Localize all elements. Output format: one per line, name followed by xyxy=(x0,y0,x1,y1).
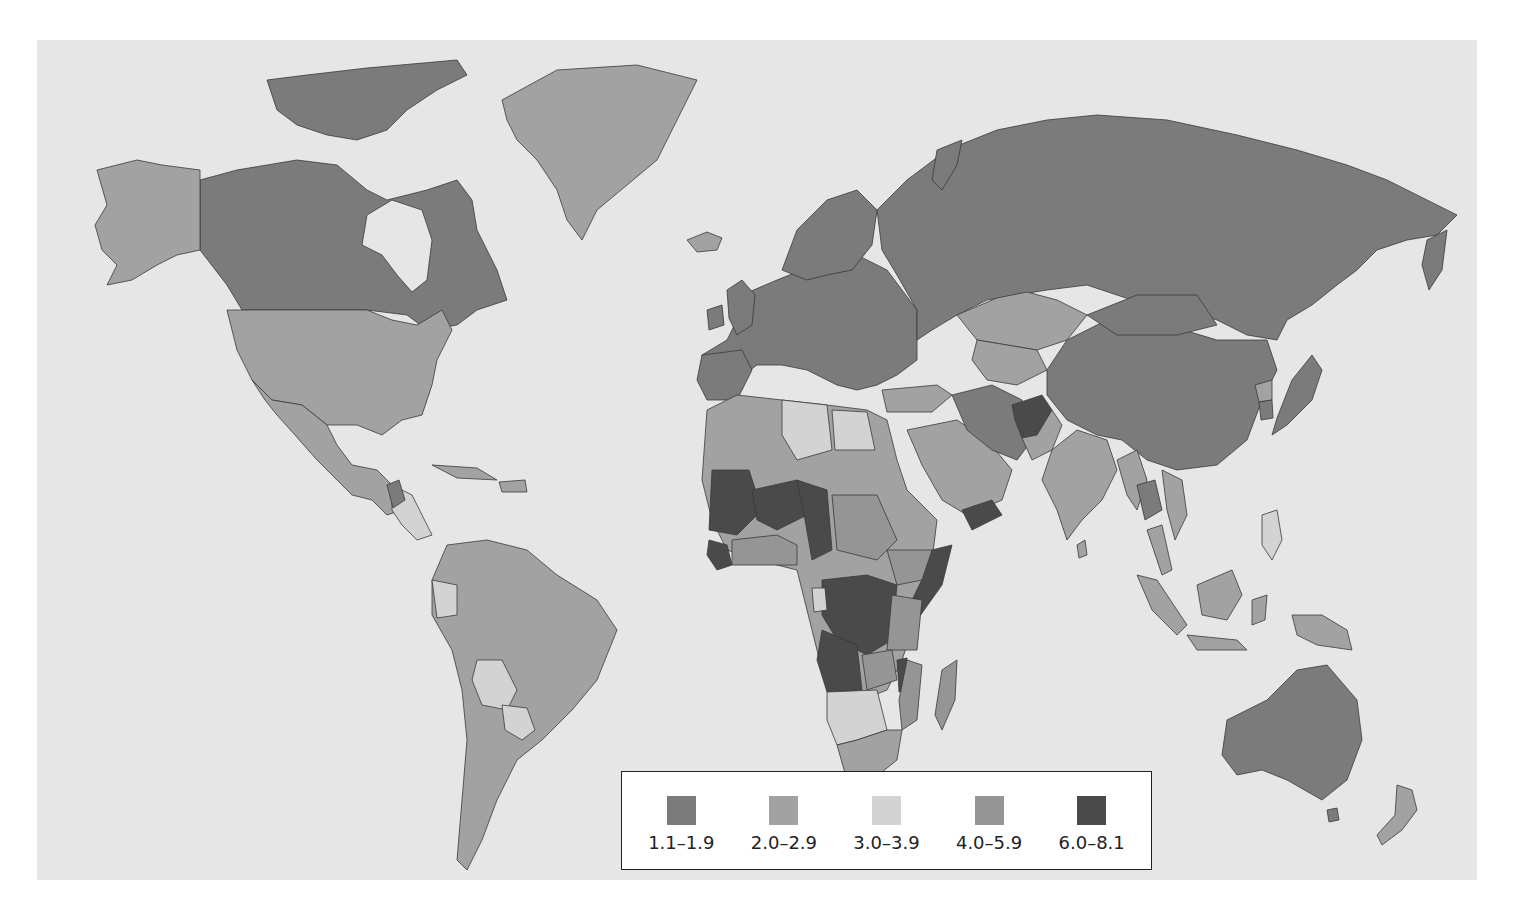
zambia xyxy=(862,650,897,690)
legend-swatch xyxy=(667,796,696,825)
java xyxy=(1187,635,1247,650)
greenland xyxy=(502,65,697,240)
legend-item-5: 6.0–8.1 xyxy=(1059,796,1125,853)
hispaniola xyxy=(499,480,527,492)
legend-swatch xyxy=(1077,796,1106,825)
legend-label: 1.1–1.9 xyxy=(648,832,714,853)
legend-label: 4.0–5.9 xyxy=(956,832,1022,853)
madagascar xyxy=(935,660,957,730)
philippines xyxy=(1262,510,1282,560)
tanzania-kenya xyxy=(887,595,922,650)
japan xyxy=(1272,355,1322,435)
iceland xyxy=(687,232,722,252)
world-map-panel xyxy=(37,40,1477,880)
tasmania xyxy=(1327,808,1339,822)
legend-item-3: 3.0–3.9 xyxy=(853,796,919,853)
sri-lanka xyxy=(1077,540,1087,558)
thailand xyxy=(1137,480,1162,520)
borneo xyxy=(1197,570,1242,620)
south-america xyxy=(432,540,617,870)
canada xyxy=(200,160,507,330)
alaska xyxy=(95,160,200,285)
canada-arctic-islands xyxy=(267,60,467,140)
legend: 1.1–1.9 2.0–2.9 3.0–3.9 4.0–5.9 6.0–8.1 xyxy=(621,771,1152,870)
usa xyxy=(227,310,452,435)
malaysia-peninsula xyxy=(1147,525,1172,575)
new-guinea xyxy=(1292,615,1352,650)
iberia xyxy=(697,350,752,400)
world-map xyxy=(37,40,1477,880)
legend-item-2: 2.0–2.9 xyxy=(751,796,817,853)
australia xyxy=(1222,665,1362,800)
sulawesi xyxy=(1252,595,1267,625)
gabon xyxy=(812,588,827,612)
turkey xyxy=(882,385,952,412)
legend-label: 3.0–3.9 xyxy=(853,832,919,853)
south-korea xyxy=(1259,400,1273,420)
kamchatka xyxy=(1422,230,1447,290)
cuba xyxy=(432,465,497,480)
legend-item-4: 4.0–5.9 xyxy=(956,796,1022,853)
legend-label: 2.0–2.9 xyxy=(751,832,817,853)
new-zealand xyxy=(1377,785,1417,845)
legend-swatch xyxy=(872,796,901,825)
legend-swatch xyxy=(975,796,1004,825)
ireland xyxy=(707,305,724,330)
legend-item-1: 1.1–1.9 xyxy=(648,796,714,853)
legend-swatch xyxy=(769,796,798,825)
vietnam xyxy=(1162,470,1187,540)
sumatra xyxy=(1137,575,1187,635)
legend-label: 6.0–8.1 xyxy=(1059,832,1125,853)
